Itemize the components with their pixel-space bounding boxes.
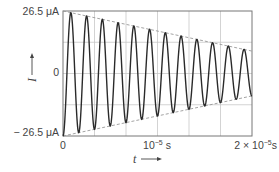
x-tick-end: 2 × 10−5s [234, 139, 277, 151]
x-axis-arrowhead-icon [157, 157, 162, 161]
x-tick-mid: 10−5 s [143, 139, 171, 151]
y-tick-bottom: − 26.5 μA [14, 126, 59, 138]
y-axis-label: I [25, 53, 39, 83]
x-tick-mid-unit: s [163, 139, 171, 151]
x-axis-title: t [133, 152, 137, 166]
x-tick-end-prefix: 2 × 10 [234, 139, 264, 151]
x-tick-end-unit: s [272, 139, 277, 151]
y-tick-zero: 0 [53, 66, 59, 78]
y-axis-title: I [25, 77, 39, 83]
x-tick-zero: 0 [60, 139, 66, 151]
x-tick-mid-exp: −5 [155, 139, 163, 146]
damped-oscillation-chart: 26.5 μA 0 − 26.5 μA 0 10−5 s 2 × 10−5s I… [0, 0, 279, 172]
x-tick-mid-base: 10 [143, 139, 155, 151]
y-tick-top: 26.5 μA [23, 5, 59, 17]
x-axis-label: t [133, 152, 162, 166]
x-tick-end-exp: −5 [264, 139, 272, 146]
grid [63, 11, 252, 136]
y-axis-arrowhead-icon [30, 53, 34, 58]
